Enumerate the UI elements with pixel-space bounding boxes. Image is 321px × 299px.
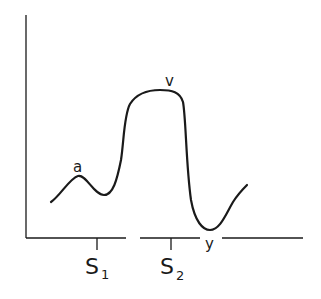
- tick-label-s1: S: [85, 254, 99, 279]
- label-a: a: [73, 158, 82, 176]
- tick-label-s2: S: [160, 254, 174, 279]
- label-y: y: [205, 235, 214, 253]
- label-v: v: [165, 72, 174, 90]
- diagram-figure: a v y S 1 S 2: [0, 0, 321, 299]
- tick-label-s2-subscript: 2: [176, 268, 184, 283]
- tick-label-s1-subscript: 1: [101, 267, 109, 282]
